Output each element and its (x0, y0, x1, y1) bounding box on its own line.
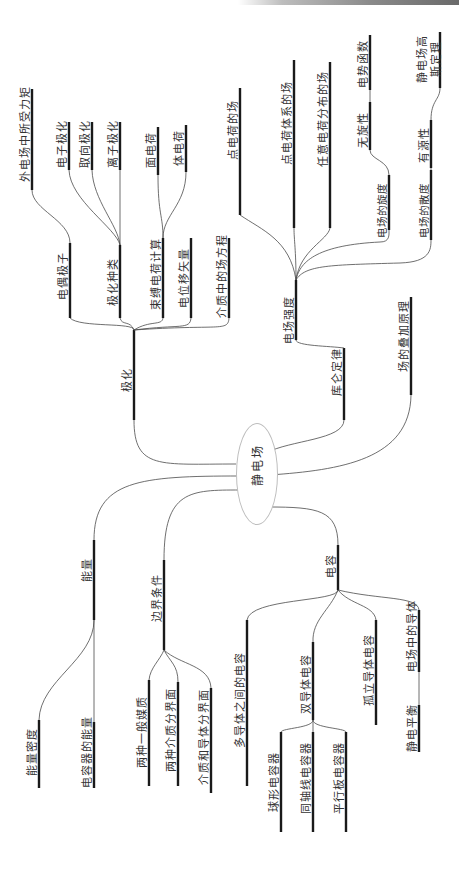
node-coulomb-law[interactable]: 库仑定律 (332, 348, 344, 396)
node-parallel-plate-capacitor[interactable]: 平行板电容器 (334, 742, 346, 814)
node-electrostatic-equilibrium[interactable]: 静电平衡 (407, 704, 419, 752)
node-sourced[interactable]: 有源性 (419, 127, 431, 163)
node-capacitor-energy[interactable]: 电容器的能量 (82, 716, 94, 788)
node-energy[interactable]: 能量 (82, 558, 94, 582)
node-energy-density[interactable]: 能量密度 (27, 728, 39, 776)
node-ionic-polarization[interactable]: 离子极化 (108, 120, 120, 168)
node-surface-charge[interactable]: 面电荷 (146, 132, 158, 168)
node-field-divergence[interactable]: 电场的散度 (418, 183, 430, 238)
node-isolated-conductor-capacitance[interactable]: 孤立导体电容 (364, 634, 376, 706)
node-point-charge-field[interactable]: 点电荷的场 (228, 100, 240, 160)
node-electric-dipole[interactable]: 电偶极子 (58, 252, 70, 300)
root-node-label: 静电场 (248, 444, 265, 486)
node-dipole-torque[interactable]: 外电场中所受力矩 (20, 86, 32, 182)
node-field-curl[interactable]: 电场的旋度 (376, 183, 388, 238)
node-coaxial-capacitor[interactable]: 同轴线电容器 (301, 742, 313, 814)
node-multi-conductor-capacitance[interactable]: 多导体之间的电容 (235, 652, 247, 748)
node-polarization-kinds[interactable]: 极化种类 (108, 258, 120, 306)
node-two-general-media[interactable]: 两种一般媒质 (137, 696, 149, 768)
node-point-system-field[interactable]: 点电荷体系的场 (282, 81, 294, 165)
node-arbitrary-distribution-field[interactable]: 任意电荷分布的场 (318, 71, 330, 167)
node-superposition[interactable]: 场的叠加原理 (399, 300, 411, 372)
node-dielectric-conductor-interface[interactable]: 介质和导体分界面 (199, 689, 211, 785)
node-bound-charge[interactable]: 束缚电荷计算 (151, 238, 163, 310)
node-volume-charge[interactable]: 体电荷 (174, 130, 186, 166)
node-gauss-law[interactable]: 静电场高斯定理 (416, 32, 444, 86)
node-polarization[interactable]: 极化 (122, 368, 134, 392)
node-two-conductor-capacitance[interactable]: 双导体电容 (301, 654, 313, 714)
node-potential-function[interactable]: 电势函数 (358, 40, 370, 88)
node-boundary-conditions[interactable]: 边界条件 (152, 574, 164, 622)
node-capacitance[interactable]: 电容 (326, 554, 338, 578)
node-irrotational[interactable]: 无旋性 (358, 112, 370, 148)
node-orientation-polarization[interactable]: 取向极化 (80, 120, 92, 168)
node-spherical-capacitor[interactable]: 球形电容器 (269, 752, 281, 812)
node-field-eq-dielectric[interactable]: 介质中的场方程 (217, 234, 229, 318)
node-conductor-in-field[interactable]: 电场中的导体 (407, 600, 419, 672)
node-displacement-vector[interactable]: 电位移矢量 (179, 248, 191, 308)
node-electronic-polarization[interactable]: 电子极化 (57, 120, 69, 168)
node-field-strength[interactable]: 电场强度 (284, 296, 296, 344)
node-two-dielectric-interface[interactable]: 两种介质分界面 (166, 688, 178, 772)
